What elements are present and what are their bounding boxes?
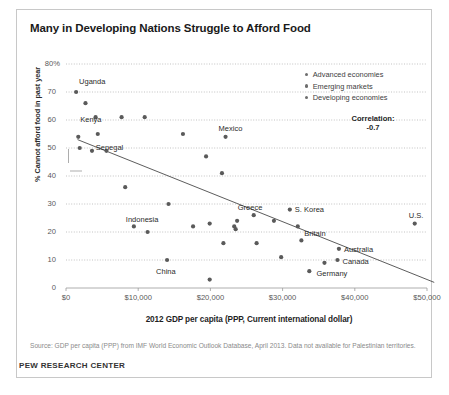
data-point-label: Germany bbox=[316, 269, 347, 278]
legend-dot-icon bbox=[305, 73, 308, 76]
legend-item-label: Advanced economies bbox=[313, 70, 384, 79]
correlation-annotation: Correlation: -0.7 bbox=[330, 114, 416, 133]
source-note: Source: GDP per capita (PPP) from IMF Wo… bbox=[30, 342, 416, 349]
legend-item-label: Developing economies bbox=[313, 93, 388, 102]
x-tick-label: $10,000 bbox=[108, 293, 168, 302]
data-point-label: Kenya bbox=[80, 115, 101, 124]
y-axis-label: % Cannot afford food in past year bbox=[33, 40, 42, 210]
x-tick-label: $20,000 bbox=[180, 293, 240, 302]
correlation-label: Correlation: bbox=[330, 114, 416, 123]
x-axis-label: 2012 GDP per capita (PPP, Current intern… bbox=[66, 315, 432, 324]
y-tick-label: 20 bbox=[26, 227, 56, 236]
legend-dot-icon bbox=[305, 96, 308, 99]
y-tick-label: 80% bbox=[26, 59, 60, 68]
legend-item-label: Emerging markets bbox=[313, 82, 373, 91]
x-tick-label: $40,000 bbox=[325, 293, 385, 302]
chart-screenshot: Many in Developing Nations Struggle to A… bbox=[0, 0, 449, 395]
data-point-label: S. Korea bbox=[295, 205, 324, 214]
data-point-label: Australia bbox=[344, 245, 373, 254]
chart-legend: Advanced economiesEmerging marketsDevelo… bbox=[305, 70, 387, 105]
legend-item-2: Developing economies bbox=[305, 93, 387, 102]
y-tick-label: 0 bbox=[26, 283, 56, 292]
data-point-label: Uganda bbox=[79, 77, 105, 86]
data-point-label: Canada bbox=[342, 257, 368, 266]
data-point-label: Mexico bbox=[219, 124, 243, 133]
data-point-label: Indonesia bbox=[126, 215, 159, 224]
data-point-label: Senegal bbox=[96, 143, 124, 152]
data-point-label: U.S. bbox=[409, 211, 424, 220]
correlation-value: -0.7 bbox=[330, 123, 416, 132]
x-tick-label: $50,000 bbox=[397, 293, 449, 302]
data-point-label: China bbox=[156, 267, 176, 276]
legend-item-1: Emerging markets bbox=[305, 82, 387, 91]
y-tick-label: 10 bbox=[26, 255, 56, 264]
x-tick-label: $0 bbox=[36, 293, 96, 302]
data-point-label: Britain bbox=[304, 229, 325, 238]
scatter-plot bbox=[0, 0, 449, 395]
legend-dot-icon bbox=[305, 84, 308, 87]
legend-item-0: Advanced economies bbox=[305, 70, 387, 79]
data-point-label: Greece bbox=[238, 203, 263, 212]
x-tick-label: $30,000 bbox=[253, 293, 313, 302]
organization-credit: PEW RESEARCH CENTER bbox=[19, 361, 125, 370]
